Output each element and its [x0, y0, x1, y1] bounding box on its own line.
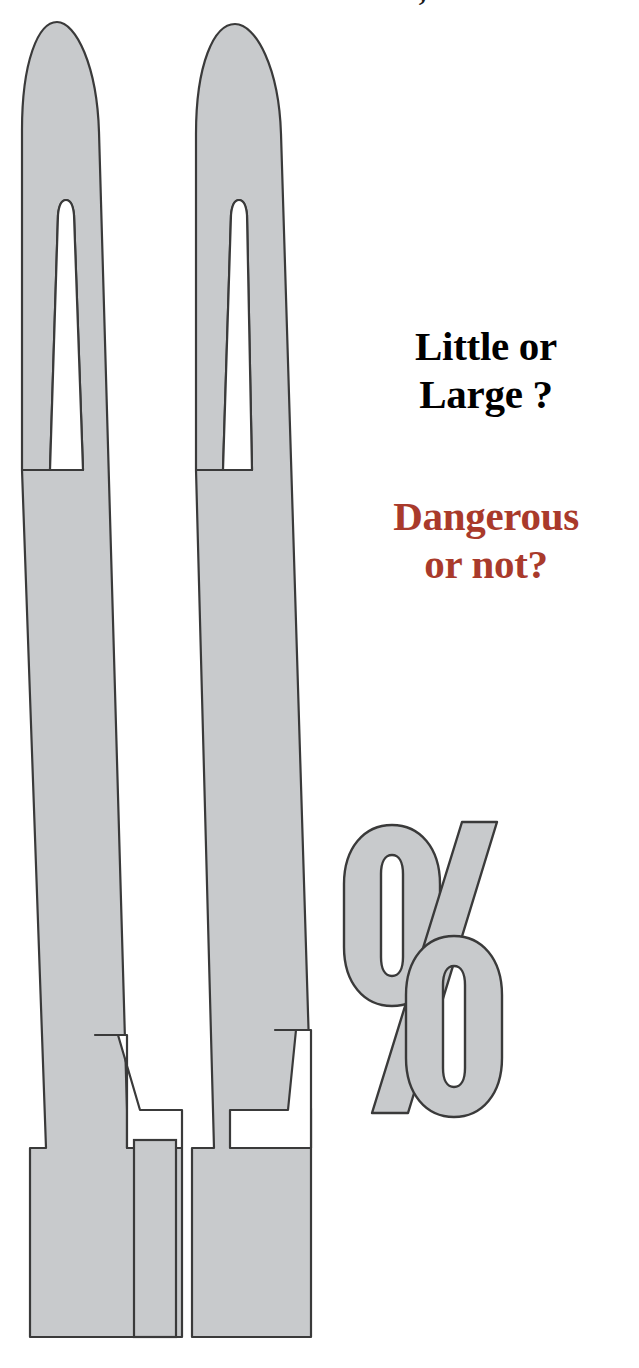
percent-lower-ring: [406, 936, 502, 1117]
headline-little-or-large: Little or Large ?: [372, 322, 600, 418]
poster-canvas: small, but... Little or Large ? Dangerou…: [0, 0, 639, 1368]
center-small-bar: [134, 1140, 176, 1337]
headline-dangerous-or-not: Dangerous or not?: [366, 492, 606, 588]
artwork-illustration: [0, 0, 639, 1368]
